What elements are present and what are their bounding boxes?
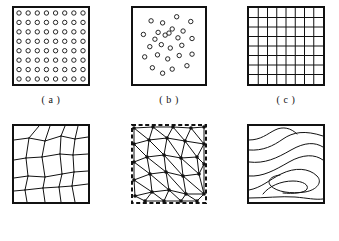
panel-e: ( e ) bbox=[131, 124, 207, 204]
panel-f: ( f ) bbox=[247, 124, 325, 204]
structured-point-lattice-graphic bbox=[12, 6, 90, 86]
triangular-delaunay-mesh-graphic bbox=[131, 124, 207, 204]
panel-c: ( c ) bbox=[247, 6, 325, 86]
panel-d: ( d ) bbox=[12, 124, 90, 204]
panel-b-caption: ( b ) bbox=[131, 94, 207, 105]
figure-container: ( a ) ( b ) ( c ) ( d ) ( e ) ( f ) bbox=[0, 0, 339, 241]
contour-streamline-field-graphic bbox=[247, 124, 325, 204]
structured-quadrilateral-grid-graphic bbox=[247, 6, 325, 86]
panel-a: ( a ) bbox=[12, 6, 90, 86]
panel-a-caption: ( a ) bbox=[12, 94, 90, 105]
panel-b: ( b ) bbox=[131, 6, 207, 86]
random-scattered-points-graphic bbox=[131, 6, 207, 86]
panel-c-caption: ( c ) bbox=[247, 94, 325, 105]
polygonal-voronoi-mesh-graphic bbox=[12, 124, 90, 204]
